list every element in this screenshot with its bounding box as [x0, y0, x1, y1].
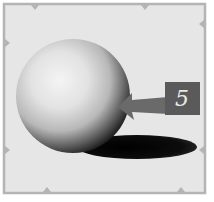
- sphere-illustration: 5: [0, 0, 214, 202]
- figure-label: 5: [175, 86, 189, 111]
- sphere: [16, 39, 130, 153]
